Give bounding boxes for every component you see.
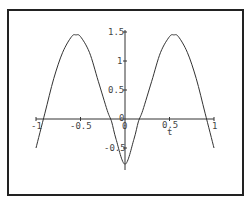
x-tick-label: 1	[212, 121, 217, 131]
y-tick-label: 0	[119, 113, 124, 123]
x-axis-label: t	[167, 127, 172, 137]
plot: -1 -0.5 0 0.5 1 t 1.5 1 0.5 0 -0.5	[0, 0, 246, 202]
y-tick-label: 1.5	[108, 27, 124, 37]
y-tick-label: 0.5	[108, 85, 124, 95]
y-tick-label: -0.5	[104, 143, 126, 153]
y-tick-label: 1	[117, 56, 122, 66]
x-tick-label: -0.5	[70, 121, 92, 131]
